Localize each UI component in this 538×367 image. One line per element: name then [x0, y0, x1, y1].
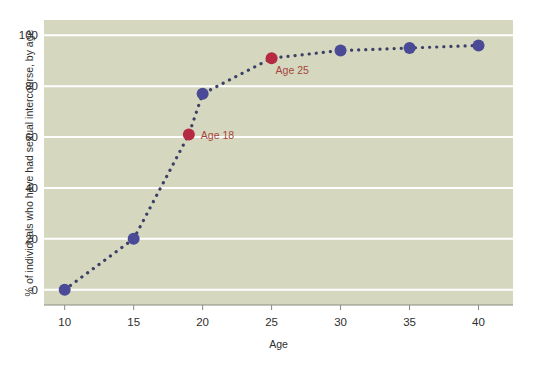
x-tick-label-25: 25 — [265, 316, 278, 328]
data-point-age-19 — [183, 129, 195, 141]
data-point-age-35 — [404, 42, 416, 54]
data-point-age-20 — [197, 88, 209, 100]
annotation-age-18: Age 18 — [201, 129, 234, 141]
x-tick-label-15: 15 — [127, 316, 140, 328]
data-point-age-15 — [128, 233, 140, 245]
x-tick-label-20: 20 — [196, 316, 209, 328]
x-tick-label-30: 30 — [334, 316, 347, 328]
line-chart: 10152025303540 020406080100 Age 18Age 25… — [0, 0, 538, 367]
y-axis-title: % of individuals who have had sexual int… — [23, 29, 35, 296]
chart-figure: 10152025303540 020406080100 Age 18Age 25… — [0, 0, 538, 367]
x-tick-label-10: 10 — [58, 316, 71, 328]
data-point-age-30 — [335, 45, 347, 57]
data-point-age-25 — [266, 52, 278, 64]
annotation-age-25: Age 25 — [276, 64, 309, 76]
data-point-age-10 — [59, 284, 71, 296]
x-tick-label-40: 40 — [472, 316, 485, 328]
data-point-age-40 — [473, 39, 485, 51]
x-axis-title: Age — [269, 338, 288, 350]
x-tick-label-35: 35 — [403, 316, 416, 328]
plot-area-background — [44, 20, 513, 305]
